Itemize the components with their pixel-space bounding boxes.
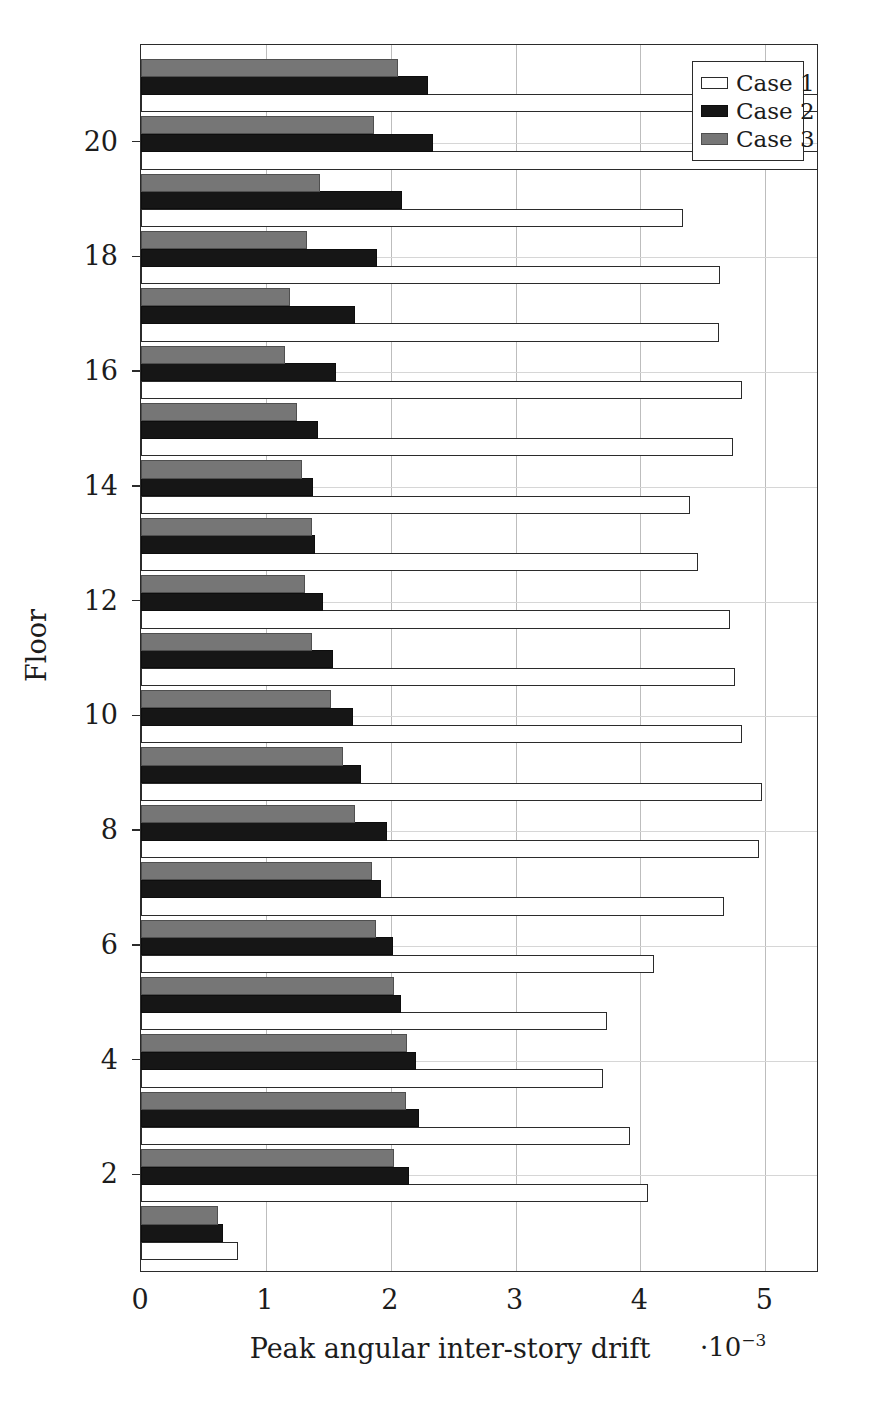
bar-floor-5-case-1 [141, 1012, 607, 1030]
bar-floor-1-case-2 [141, 1224, 223, 1242]
bar-floor-3-case-2 [141, 1109, 419, 1127]
bar-floor-4-case-3 [141, 1034, 407, 1052]
y-tick-mark-4 [132, 1059, 140, 1060]
bar-floor-15-case-3 [141, 403, 297, 421]
x-tick-label-2: 2 [350, 1286, 430, 1313]
y-tick-label-2: 2 [30, 1160, 118, 1187]
bar-floor-15-case-2 [141, 421, 318, 439]
bar-floor-7-case-3 [141, 862, 372, 880]
x-tick-label-1: 1 [225, 1286, 305, 1313]
bar-floor-7-case-2 [141, 880, 381, 898]
gridline-x-5 [765, 45, 766, 1271]
y-axis-title: Floor [21, 576, 52, 716]
y-tick-mark-6 [132, 944, 140, 945]
y-tick-mark-14 [132, 485, 140, 486]
bar-floor-16-case-3 [141, 346, 285, 364]
bar-floor-17-case-2 [141, 306, 355, 324]
bar-floor-19-case-3 [141, 174, 320, 192]
bar-floor-9-case-3 [141, 747, 343, 765]
bar-floor-18-case-2 [141, 249, 377, 267]
y-tick-mark-20 [132, 141, 140, 142]
bar-floor-11-case-3 [141, 633, 312, 651]
bar-floor-4-case-2 [141, 1052, 416, 1070]
x-tick-label-3: 3 [475, 1286, 555, 1313]
bar-floor-12-case-2 [141, 593, 323, 611]
bar-floor-2-case-2 [141, 1167, 409, 1185]
bar-floor-21-case-2 [141, 76, 428, 94]
x-tick-label-0: 0 [100, 1286, 180, 1313]
bar-floor-13-case-2 [141, 535, 315, 553]
y-tick-mark-18 [132, 256, 140, 257]
multiplier-base: ·10 [700, 1332, 741, 1362]
bar-floor-18-case-1 [141, 266, 720, 284]
y-tick-label-16: 16 [30, 357, 118, 384]
bar-floor-3-case-3 [141, 1092, 406, 1110]
chart-figure: 2468101214161820 012345 Floor Peak angul… [0, 0, 873, 1409]
bar-floor-8-case-1 [141, 840, 759, 858]
bar-floor-6-case-1 [141, 955, 654, 973]
plot-area [140, 44, 818, 1272]
gridline-x-4 [640, 45, 641, 1271]
legend-item-case-2[interactable]: Case 2 [701, 97, 795, 125]
legend-label: Case 3 [736, 128, 815, 151]
bar-floor-20-case-3 [141, 116, 374, 134]
bar-floor-14-case-2 [141, 478, 313, 496]
bar-floor-11-case-2 [141, 650, 333, 668]
x-axis-multiplier: ·10−3 [700, 1330, 766, 1362]
bar-floor-10-case-1 [141, 725, 742, 743]
legend-item-case-1[interactable]: Case 1 [701, 69, 795, 97]
bar-floor-13-case-3 [141, 518, 312, 536]
legend-label: Case 2 [736, 100, 815, 123]
legend-label: Case 1 [736, 72, 815, 95]
bar-floor-10-case-3 [141, 690, 331, 708]
chart-legend: Case 1Case 2Case 3 [692, 61, 804, 161]
bar-floor-18-case-3 [141, 231, 307, 249]
bar-floor-12-case-1 [141, 610, 730, 628]
bar-floor-11-case-1 [141, 668, 735, 686]
y-tick-label-18: 18 [30, 242, 118, 269]
legend-swatch-icon-3 [701, 133, 728, 145]
bar-floor-13-case-1 [141, 553, 698, 571]
bar-floor-2-case-1 [141, 1184, 648, 1202]
bar-floor-5-case-2 [141, 995, 401, 1013]
bar-floor-1-case-3 [141, 1206, 218, 1224]
bar-floor-7-case-1 [141, 897, 724, 915]
y-tick-label-8: 8 [30, 816, 118, 843]
bar-floor-9-case-1 [141, 783, 762, 801]
bar-floor-2-case-3 [141, 1149, 394, 1167]
bar-floor-21-case-3 [141, 59, 398, 77]
bar-floor-10-case-2 [141, 708, 353, 726]
y-tick-mark-16 [132, 370, 140, 371]
bar-floor-6-case-2 [141, 937, 393, 955]
bar-floor-15-case-1 [141, 438, 733, 456]
x-tick-label-4: 4 [599, 1286, 679, 1313]
bar-floor-4-case-1 [141, 1069, 603, 1087]
bar-floor-9-case-2 [141, 765, 361, 783]
bar-floor-20-case-2 [141, 134, 433, 152]
bar-floor-8-case-2 [141, 822, 387, 840]
legend-swatch-icon-2 [701, 105, 728, 117]
y-tick-label-20: 20 [30, 128, 118, 155]
bar-floor-12-case-3 [141, 575, 305, 593]
y-tick-mark-2 [132, 1174, 140, 1175]
bar-floor-6-case-3 [141, 920, 376, 938]
legend-item-case-3[interactable]: Case 3 [701, 125, 795, 153]
y-tick-mark-10 [132, 715, 140, 716]
x-axis-title: Peak angular inter-story drift [140, 1333, 760, 1364]
x-tick-label-5: 5 [724, 1286, 804, 1313]
bar-floor-3-case-1 [141, 1127, 630, 1145]
bar-floor-17-case-1 [141, 323, 719, 341]
bar-floor-16-case-1 [141, 381, 742, 399]
y-tick-mark-8 [132, 829, 140, 830]
bar-floor-5-case-3 [141, 977, 394, 995]
bar-floor-14-case-1 [141, 496, 690, 514]
bar-floor-14-case-3 [141, 460, 302, 478]
bar-floor-17-case-3 [141, 288, 290, 306]
y-tick-mark-12 [132, 600, 140, 601]
bar-floor-19-case-2 [141, 191, 402, 209]
bar-floor-19-case-1 [141, 209, 683, 227]
multiplier-exponent: −3 [741, 1330, 766, 1350]
bar-floor-16-case-2 [141, 363, 336, 381]
y-tick-label-4: 4 [30, 1046, 118, 1073]
y-tick-label-14: 14 [30, 472, 118, 499]
